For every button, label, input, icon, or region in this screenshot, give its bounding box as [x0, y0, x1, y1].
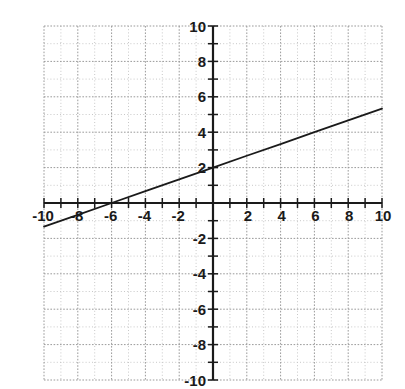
y-tick-label: 6: [198, 88, 206, 105]
coordinate-graph: -10-8-6-4-2246810 108642-2-4-6-8-10: [0, 0, 405, 389]
y-tick-label: 4: [198, 124, 207, 141]
x-tick-label: -4: [138, 207, 152, 224]
graph-canvas: -10-8-6-4-2246810 108642-2-4-6-8-10: [0, 0, 405, 389]
y-tick-label: -6: [193, 301, 206, 318]
x-tick-label: 10: [375, 207, 392, 224]
x-tick-label: -8: [70, 207, 83, 224]
y-tick-label: -4: [193, 265, 207, 282]
y-tick-label: -10: [184, 372, 206, 389]
y-tick-label: -2: [193, 230, 206, 247]
y-tick-label: 2: [198, 159, 206, 176]
x-tick-label: 2: [244, 207, 252, 224]
x-tick-label: 8: [345, 207, 353, 224]
x-tick-label: -2: [172, 207, 185, 224]
x-tick-label: -10: [32, 207, 54, 224]
y-tick-label: -8: [193, 336, 206, 353]
x-tick-label: -6: [104, 207, 117, 224]
x-tick-label: 4: [277, 207, 286, 224]
y-tick-label: 8: [198, 53, 206, 70]
y-tick-label: 10: [189, 18, 206, 35]
x-tick-label: 6: [311, 207, 319, 224]
